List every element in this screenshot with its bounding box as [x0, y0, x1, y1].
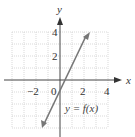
y-axis-label: y [56, 3, 62, 15]
x-axis-arrow-icon [114, 77, 122, 83]
function-label: y = f(x) [64, 102, 98, 115]
tick-y-2: 2 [52, 50, 58, 62]
tick-x-2: 2 [80, 85, 86, 97]
tick-x-neg2: −2 [27, 85, 39, 97]
function-graph: x y −2 0 2 4 2 4 y = f(x) [0, 0, 135, 137]
tick-x-4: 4 [104, 85, 110, 97]
x-axis-label: x [125, 74, 131, 86]
tick-y-4: 4 [52, 26, 58, 38]
y-axis-arrow-icon [57, 17, 63, 25]
tick-x-0: 0 [51, 85, 57, 97]
